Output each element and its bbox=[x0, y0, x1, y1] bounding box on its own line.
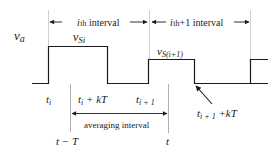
ith-interval-label: ith interval bbox=[77, 17, 120, 28]
time-ti-label: ti bbox=[46, 93, 51, 107]
pulse-vsi1-label: vS(i+1) bbox=[157, 45, 183, 59]
time-ti-plus-kT-label: ti + kT bbox=[78, 93, 108, 107]
time-t-label: t bbox=[166, 135, 170, 147]
pointer-arrow bbox=[196, 86, 212, 104]
pulse-vsi-label: vSi bbox=[73, 30, 86, 45]
pwm-averaging-diagram: ith interval ith+1 interval va vSi vS(i+… bbox=[0, 0, 278, 156]
time-t-minus-T-label: t − T bbox=[56, 135, 79, 147]
signal-va-label: va bbox=[14, 28, 25, 44]
averaging-interval-label: averaging interval bbox=[84, 120, 150, 130]
time-ti1-label: ti + 1 bbox=[136, 93, 155, 107]
ith-plus-1-interval-label: ith+1 interval bbox=[170, 17, 223, 28]
time-ti1-plus-kT-label: ti + 1 +kT bbox=[197, 107, 238, 121]
pulse-waveform bbox=[32, 47, 268, 84]
